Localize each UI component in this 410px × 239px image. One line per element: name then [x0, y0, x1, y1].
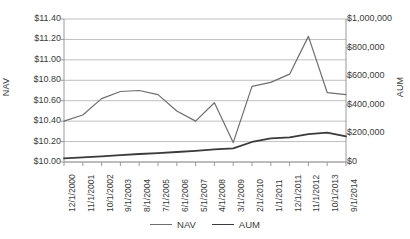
x-axis-tick-marks [64, 162, 346, 166]
left-axis-tick-label: $11.40 [34, 14, 61, 23]
legend-line-icon [212, 224, 234, 225]
legend-item-aum[interactable]: AUM [212, 219, 260, 230]
left-axis-tick-label: $10.60 [33, 96, 61, 105]
plot-area [0, 0, 410, 239]
chart-container: NAV AUM $10.00$10.20$10.40$10.60$10.80$1… [0, 0, 410, 239]
left-axis-tick-label: $11.00 [34, 55, 61, 64]
right-axis-tick-label: $800,000 [347, 43, 385, 52]
right-axis-tick-label: $400,000 [347, 100, 385, 109]
gridlines [64, 19, 346, 162]
series-line-aum [64, 133, 346, 159]
chart-legend: NAVAUM [0, 219, 410, 230]
legend-label: AUM [239, 219, 260, 230]
left-axis-tick-label: $10.20 [33, 137, 61, 146]
right-axis-tick-label: $1,000,000 [347, 14, 392, 23]
series-line-nav [64, 36, 346, 142]
left-axis-tick-label: $11.20 [34, 34, 61, 43]
left-axis-tick-label: $10.00 [33, 157, 61, 166]
series-lines [64, 36, 346, 158]
right-axis-tick-label: $200,000 [347, 128, 385, 137]
right-axis-tick-label: $600,000 [347, 71, 385, 80]
right-axis-tick-label: $0 [347, 157, 357, 166]
axis-lines [64, 19, 346, 162]
right-axis-title: AUM [395, 65, 405, 109]
left-axis-tick-label: $10.40 [33, 116, 61, 125]
left-axis-title: NAV [1, 65, 11, 109]
legend-item-nav[interactable]: NAV [150, 219, 196, 230]
legend-label: NAV [177, 219, 196, 230]
legend-line-icon [150, 224, 172, 225]
left-axis-tick-label: $10.80 [33, 75, 61, 84]
